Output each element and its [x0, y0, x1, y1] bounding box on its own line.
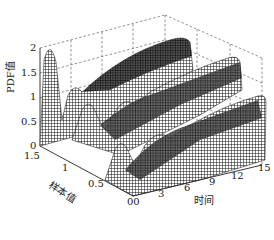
x-axis-label: 时间 — [194, 192, 214, 207]
z-axis-label: PDF值 — [2, 61, 17, 93]
y-tick-1.5: 1.5 — [24, 151, 40, 161]
y-tick-1: 1 — [62, 163, 68, 173]
x-tick-12: 12 — [231, 171, 244, 181]
z-tick-1.5: 1.5 — [21, 68, 37, 78]
origin-label: 00 — [127, 197, 140, 207]
z-tick-2: 2 — [30, 43, 36, 53]
z-tick-0.5: 0.5 — [21, 117, 37, 127]
y-tick-0.5: 0.5 — [88, 179, 104, 189]
z-tick-1: 1 — [30, 92, 36, 102]
x-tick-15: 15 — [258, 163, 271, 173]
x-tick-6: 6 — [184, 183, 190, 193]
x-tick-3: 3 — [158, 189, 164, 199]
x-tick-9: 9 — [209, 177, 215, 187]
